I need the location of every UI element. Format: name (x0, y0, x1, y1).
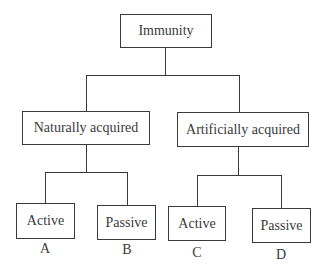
marker-a: A (40, 241, 50, 257)
connector-to-artificial (239, 75, 240, 113)
marker-c: C (192, 245, 201, 261)
connector-root-down (165, 47, 166, 76)
node-naturally-acquired: Naturally acquired (22, 111, 150, 145)
connector-level1-horizontal (86, 75, 240, 76)
marker-d: D (276, 247, 286, 263)
connector-natural-down (86, 144, 87, 173)
connector-artificial-down (238, 146, 239, 176)
connector-to-artificial-passive (281, 175, 282, 209)
marker-b: B (122, 242, 131, 258)
node-artificial-active: Active (168, 206, 226, 241)
node-immunity: Immunity (120, 14, 212, 48)
connector-natural-horizontal (45, 172, 128, 173)
connector-to-natural-active (45, 172, 46, 204)
node-artificially-acquired: Artificially acquired (177, 112, 309, 147)
node-natural-passive: Passive (97, 205, 156, 240)
connector-artificial-horizontal (197, 175, 282, 176)
connector-to-natural-passive (127, 172, 128, 206)
node-natural-active: Active (16, 203, 75, 239)
node-artificial-passive: Passive (252, 208, 311, 243)
connector-to-artificial-active (197, 175, 198, 207)
connector-to-natural (86, 75, 87, 112)
